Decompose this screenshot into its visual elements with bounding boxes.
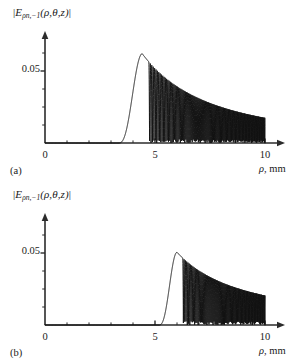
panel-b-ytick-label: 0.05 bbox=[6, 245, 40, 256]
panel-b: |Eρn,−1(ρ,θ,z)| 0.05 0 5 10 ρ, mm (b) bbox=[0, 182, 302, 363]
panel-b-x-axis-title: ρ, mm bbox=[259, 345, 286, 356]
panel-a-xtick-0: 0 bbox=[34, 149, 56, 160]
panel-b-xtick-5: 5 bbox=[144, 331, 166, 342]
panel-a-xtick-10: 10 bbox=[254, 149, 276, 160]
panel-b-xtick-10: 10 bbox=[254, 331, 276, 342]
panel-b-xtick-0: 0 bbox=[34, 331, 56, 342]
panel-a: |Eρn,−1(ρ,θ,z)| 0.05 0 5 10 ρ, mm (a) bbox=[0, 0, 302, 181]
panel-b-tag: (b) bbox=[10, 347, 22, 358]
figure-two-panel-field-plots: |Eρn,−1(ρ,θ,z)| 0.05 0 5 10 ρ, mm (a) |E… bbox=[0, 0, 302, 363]
panel-a-x-axis-title: ρ, mm bbox=[259, 163, 286, 174]
panel-a-ytick-label: 0.05 bbox=[6, 63, 40, 74]
panel-a-xtick-5: 5 bbox=[144, 149, 166, 160]
panel-a-tag: (a) bbox=[10, 165, 22, 176]
